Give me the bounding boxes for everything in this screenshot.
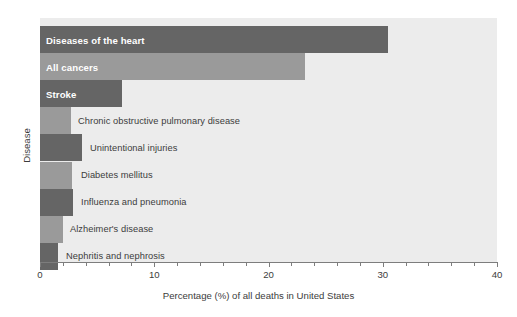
x-axis-major-tick: [40, 262, 41, 267]
x-axis-minor-tick: [314, 262, 315, 266]
x-axis-minor-tick: [451, 262, 452, 266]
bar-label: Unintentional injuries: [90, 143, 177, 153]
bar-row: Diseases of the heart: [40, 26, 497, 53]
x-tick-label-10: 10: [149, 269, 160, 280]
x-axis-minor-tick: [86, 262, 87, 266]
bar-label: Diseases of the heart: [46, 34, 145, 45]
x-axis-major-tick: [154, 262, 155, 267]
x-axis-minor-tick: [428, 262, 429, 266]
x-axis-minor-tick: [177, 262, 178, 266]
x-axis-major-tick: [497, 262, 498, 267]
x-tick-label-20: 20: [263, 269, 274, 280]
x-tick-label-0: 0: [37, 269, 42, 280]
plot-area: Diseases of the heart All cancers Stroke…: [40, 18, 497, 262]
bar-chronic-obstructive-pulmonary-disease[interactable]: [40, 107, 71, 134]
bar-row: Unintentional injuries: [40, 134, 497, 161]
x-axis-major-tick: [269, 262, 270, 267]
bar-unintentional-injuries[interactable]: [40, 134, 82, 161]
bar-row: Influenza and pneumonia: [40, 189, 497, 216]
bar-influenza-and-pneumonia[interactable]: [40, 189, 73, 216]
x-axis-minor-tick: [360, 262, 361, 266]
y-axis-title: Disease: [21, 106, 32, 186]
x-tick-label-30: 30: [377, 269, 388, 280]
x-axis-minor-tick: [246, 262, 247, 266]
bar-chart-figure: Diseases of the heart All cancers Stroke…: [0, 0, 517, 317]
bar-label: Nephritis and nephrosis: [66, 251, 165, 261]
bar-row: Alzheimer's disease: [40, 216, 497, 243]
bar-row: Chronic obstructive pulmonary disease: [40, 107, 497, 134]
x-axis-minor-tick: [337, 262, 338, 266]
x-axis-minor-tick: [63, 262, 64, 266]
x-axis-minor-tick: [474, 262, 475, 266]
x-axis-minor-tick: [200, 262, 201, 266]
x-axis-minor-tick: [223, 262, 224, 266]
x-axis-major-tick: [383, 262, 384, 267]
bar-alzheimers-disease[interactable]: [40, 216, 63, 243]
x-axis-minor-tick: [291, 262, 292, 266]
bar-nephritis-and-nephrosis[interactable]: [40, 243, 58, 270]
bar-row: Stroke: [40, 80, 497, 107]
bar-label: Diabetes mellitus: [81, 170, 153, 180]
x-axis-minor-tick: [131, 262, 132, 266]
x-axis-title: Percentage (%) of all deaths in United S…: [0, 290, 517, 301]
x-axis-minor-tick: [109, 262, 110, 266]
bar-row: Diabetes mellitus: [40, 162, 497, 189]
bar-label: Stroke: [46, 88, 76, 99]
bar-label: Chronic obstructive pulmonary disease: [78, 116, 240, 126]
bar-label: Alzheimer's disease: [70, 224, 153, 234]
bar-label: All cancers: [46, 61, 98, 72]
bar-diabetes-mellitus[interactable]: [40, 162, 72, 189]
x-tick-label-40: 40: [492, 269, 503, 280]
bar-row: All cancers: [40, 53, 497, 80]
bar-label: Influenza and pneumonia: [81, 197, 187, 207]
x-axis-minor-tick: [406, 262, 407, 266]
